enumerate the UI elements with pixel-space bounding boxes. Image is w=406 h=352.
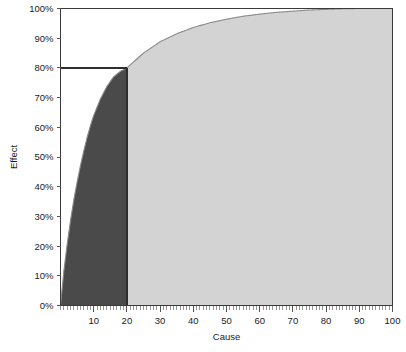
- x-tick-label: 60: [254, 315, 265, 326]
- y-tick-label: 30%: [34, 211, 54, 222]
- x-tick-label: 90: [354, 315, 365, 326]
- chart-canvas: 0%10%20%30%40%50%60%70%80%90%100% 102030…: [0, 0, 406, 352]
- x-tick-label: 20: [122, 315, 133, 326]
- y-tick-label: 20%: [34, 241, 54, 252]
- y-tick-label: 10%: [34, 270, 54, 281]
- x-axis-title: Cause: [213, 331, 240, 342]
- x-tick-label: 50: [221, 315, 232, 326]
- y-tick-label: 90%: [34, 33, 54, 44]
- y-tick-label: 80%: [34, 62, 54, 73]
- region-vital-few: [61, 68, 127, 306]
- x-tick-label: 80: [321, 315, 332, 326]
- y-tick-label: 60%: [34, 122, 54, 133]
- x-tick-label: 10: [88, 315, 99, 326]
- y-axis-title: Effect: [8, 145, 19, 169]
- y-tick-label: 0%: [40, 300, 54, 311]
- y-tick-label: 50%: [34, 151, 54, 162]
- shaded-regions: [61, 9, 393, 306]
- y-tick-label: 40%: [34, 181, 54, 192]
- x-axis-ticks: [61, 306, 393, 312]
- x-tick-label: 30: [155, 315, 166, 326]
- pareto-chart: 0%10%20%30%40%50%60%70%80%90%100% 102030…: [0, 0, 406, 352]
- y-axis-ticks: [57, 9, 61, 306]
- x-tick-label: 100: [385, 315, 401, 326]
- x-tick-label: 40: [188, 315, 199, 326]
- y-tick-label: 100%: [29, 3, 54, 14]
- y-axis-tick-labels: 0%10%20%30%40%50%60%70%80%90%100%: [29, 3, 54, 311]
- x-tick-label: 70: [288, 315, 299, 326]
- region-trivial-many: [127, 9, 393, 306]
- y-tick-label: 70%: [34, 92, 54, 103]
- x-axis-tick-labels: 102030405060708090100: [88, 315, 400, 326]
